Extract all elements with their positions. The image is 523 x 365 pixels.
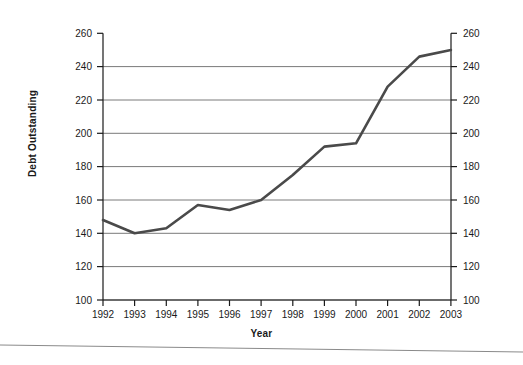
y-tick-label-left: 120 — [75, 261, 92, 272]
x-tick-label: 1998 — [282, 309, 305, 320]
x-axis-ticks — [103, 300, 451, 306]
x-tick-label: 2003 — [440, 309, 463, 320]
y-axis-left-labels: 100 120 140 160 180 200 220 240 260 — [75, 28, 92, 306]
y-axis-right-ticks — [451, 33, 457, 300]
x-tick-label: 1993 — [123, 309, 146, 320]
x-tick-label: 1997 — [250, 309, 273, 320]
x-tick-label: 1999 — [313, 309, 336, 320]
data-series-line — [103, 50, 451, 233]
y-tick-label-left: 160 — [75, 195, 92, 206]
x-tick-label: 1996 — [218, 309, 241, 320]
y-axis-left-ticks — [97, 33, 103, 300]
y-tick-label-left: 140 — [75, 228, 92, 239]
chart-figure: 100 120 140 160 180 200 220 240 260 100 … — [0, 0, 523, 365]
x-tick-label: 1992 — [92, 309, 115, 320]
y-axis-title: Debt Outstanding — [27, 74, 38, 194]
y-tick-label-right: 260 — [463, 28, 480, 39]
x-tick-label: 1995 — [187, 309, 210, 320]
y-tick-label-right: 200 — [463, 128, 480, 139]
y-tick-label-left: 260 — [75, 28, 92, 39]
y-tick-label-right: 100 — [463, 295, 480, 306]
y-tick-label-right: 140 — [463, 228, 480, 239]
line-chart-canvas: 100 120 140 160 180 200 220 240 260 100 … — [0, 0, 523, 365]
x-tick-label: 1994 — [155, 309, 178, 320]
y-tick-label-left: 100 — [75, 295, 92, 306]
footer-rule — [0, 345, 523, 352]
x-axis-labels: 1992 1993 1994 1995 1996 1997 1998 1999 … — [92, 309, 463, 320]
x-tick-label: 2000 — [345, 309, 368, 320]
y-tick-label-right: 180 — [463, 161, 480, 172]
y-tick-label-right: 220 — [463, 95, 480, 106]
x-axis-title: Year — [0, 328, 523, 339]
y-tick-label-right: 160 — [463, 195, 480, 206]
y-tick-label-right: 120 — [463, 261, 480, 272]
y-tick-label-left: 240 — [75, 61, 92, 72]
gridlines — [103, 67, 451, 300]
y-axis-right-labels: 100 120 140 160 180 200 220 240 260 — [463, 28, 480, 306]
x-tick-label: 2002 — [408, 309, 431, 320]
y-tick-label-left: 220 — [75, 95, 92, 106]
y-tick-label-left: 200 — [75, 128, 92, 139]
x-tick-label: 2001 — [376, 309, 399, 320]
y-tick-label-right: 240 — [463, 61, 480, 72]
y-tick-label-left: 180 — [75, 161, 92, 172]
